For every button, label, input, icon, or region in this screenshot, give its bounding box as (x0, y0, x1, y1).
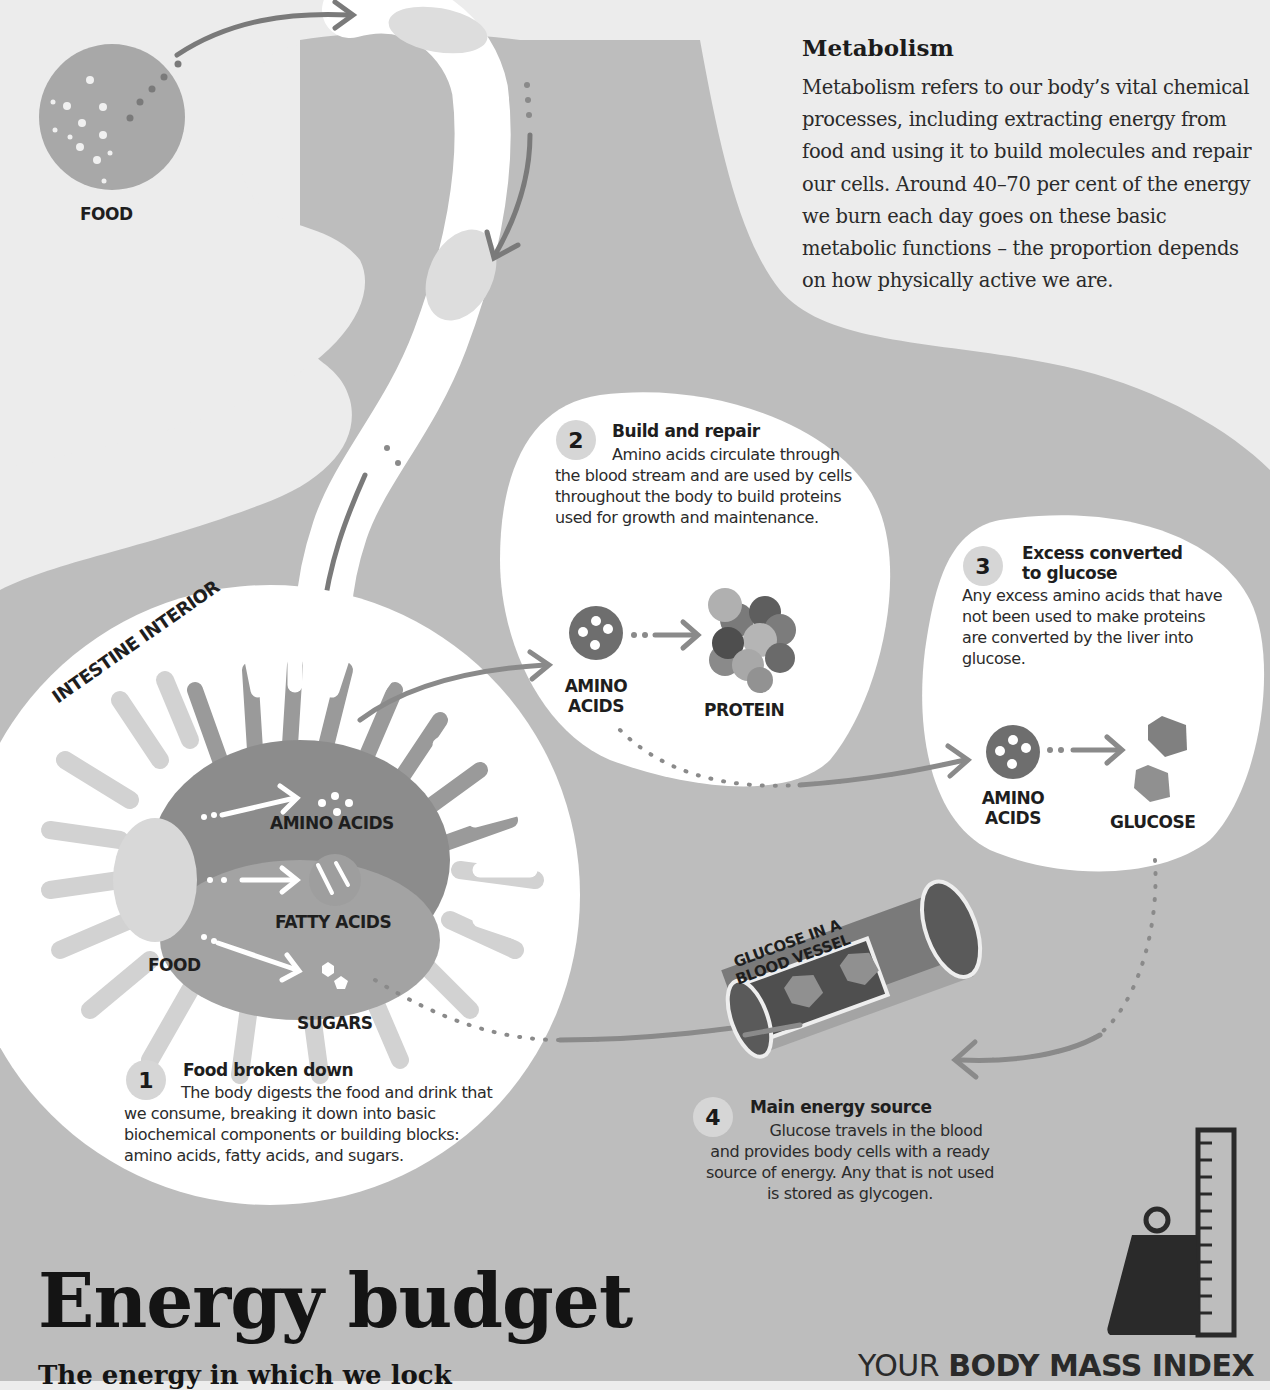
page-title: Energy budget (38, 1258, 632, 1344)
step-2-title: Build and repair (612, 421, 760, 441)
step-4-title: Main energy source (750, 1097, 932, 1117)
sugars-label: SUGARS (297, 1013, 373, 1033)
step-3-body: Any excess amino acids that have not bee… (962, 585, 1232, 669)
step-4-body: Glucose travels in the blood and provide… (705, 1120, 995, 1204)
fatty-acids-label: FATTY ACIDS (275, 912, 391, 932)
step-1-title: Food broken down (183, 1060, 353, 1080)
bmi-heading: YOUR BODY MASS INDEX (858, 1348, 1254, 1383)
protein-label: PROTEIN (704, 700, 784, 720)
food-label: FOOD (80, 204, 133, 224)
glucose-label: GLUCOSE (1110, 812, 1195, 832)
step-3-title: Excess convertedto glucose (1022, 543, 1183, 583)
food-lump (113, 818, 197, 942)
metabolism-body: Metabolism refers to our body’s vital ch… (802, 72, 1262, 297)
step-3-amino-label: AMINOACIDS (977, 788, 1049, 828)
food-lump-label: FOOD (148, 955, 201, 975)
step-2-amino-label: AMINOACIDS (560, 676, 632, 716)
step-2-body: Amino acids circulate through the blood … (555, 444, 855, 528)
subtitle-line: The energy in which we lock (38, 1360, 452, 1390)
step-3-badge: 3 (963, 546, 1003, 586)
amino-acids-label: AMINO ACIDS (270, 813, 394, 833)
step-1-body: The body digests the food and drink that… (124, 1082, 494, 1166)
metabolism-title: Metabolism (802, 34, 954, 61)
food-ball (39, 44, 185, 190)
